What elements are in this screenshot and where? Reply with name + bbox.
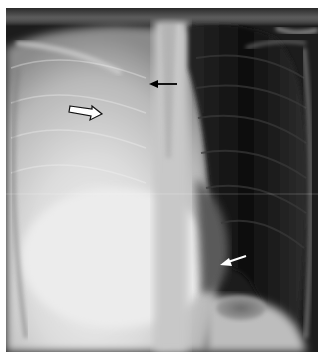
xray-rendering xyxy=(6,8,318,352)
chest-xray-image xyxy=(6,8,318,352)
